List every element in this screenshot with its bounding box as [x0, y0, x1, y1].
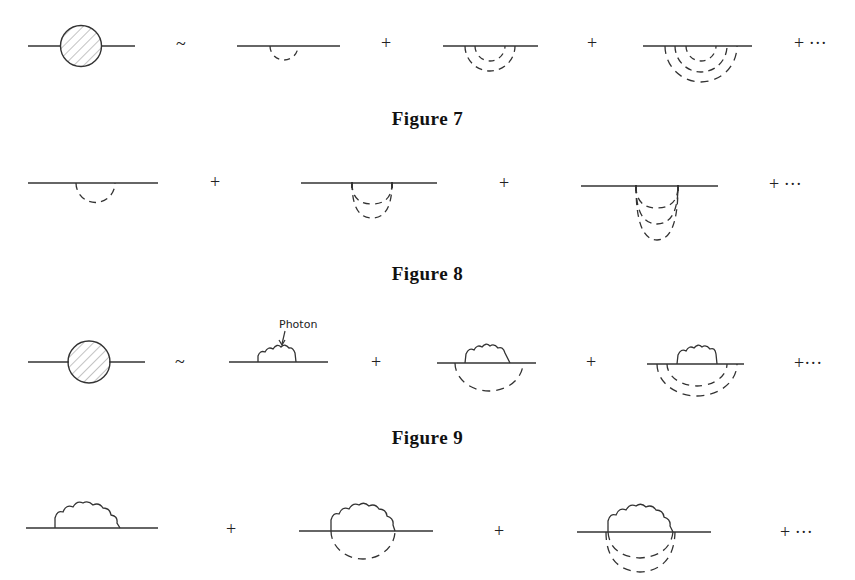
plus-symbol: + — [494, 521, 504, 542]
figure-10-row — [26, 502, 711, 572]
ellipsis-term: + ··· — [794, 33, 827, 54]
fig8-diagram-1-arc — [28, 183, 158, 203]
dressed-propagator-blob — [28, 26, 135, 67]
fig9-photon-self-energy — [229, 331, 328, 362]
feynman-diagrams — [0, 0, 855, 580]
plus-symbol: + — [226, 519, 236, 540]
figure-9-caption: Figure 9 — [0, 427, 855, 449]
plus-symbol: + — [587, 33, 597, 54]
fig7-diagram-2-loops — [443, 46, 538, 71]
plus-symbol: + — [381, 33, 391, 54]
fig9-photon-plus-2-dashed — [647, 345, 744, 396]
plus-symbol: + — [499, 173, 509, 194]
figure-9-row — [28, 331, 744, 396]
figure-7-caption: Figure 7 — [0, 108, 855, 130]
figure-8-caption: Figure 8 — [0, 263, 855, 285]
approx-symbol: ~ — [176, 34, 186, 55]
dressed-propagator-blob — [28, 341, 145, 383]
fig7-diagram-1-loop — [237, 46, 340, 60]
fig9-photon-plus-1-dashed — [437, 344, 536, 391]
photon-label: Photon — [279, 318, 317, 331]
figure-8-row — [28, 182, 718, 240]
plus-symbol: + — [210, 172, 220, 193]
fig7-diagram-3-loops — [643, 46, 752, 82]
approx-symbol: ~ — [175, 352, 185, 373]
fig8-diagram-3-arcs — [581, 185, 718, 240]
plus-symbol: + — [586, 352, 596, 373]
ellipsis-term: +··· — [794, 353, 822, 374]
fig10-photon-plus-2-dashed — [577, 504, 711, 572]
fig8-diagram-2-arcs — [301, 182, 437, 218]
fig10-photon-plus-1-dashed — [299, 503, 433, 559]
fig10-photon-self-energy — [26, 502, 158, 528]
ellipsis-term: + ··· — [780, 522, 813, 543]
ellipsis-term: + ··· — [769, 174, 802, 195]
plus-symbol: + — [371, 352, 381, 373]
